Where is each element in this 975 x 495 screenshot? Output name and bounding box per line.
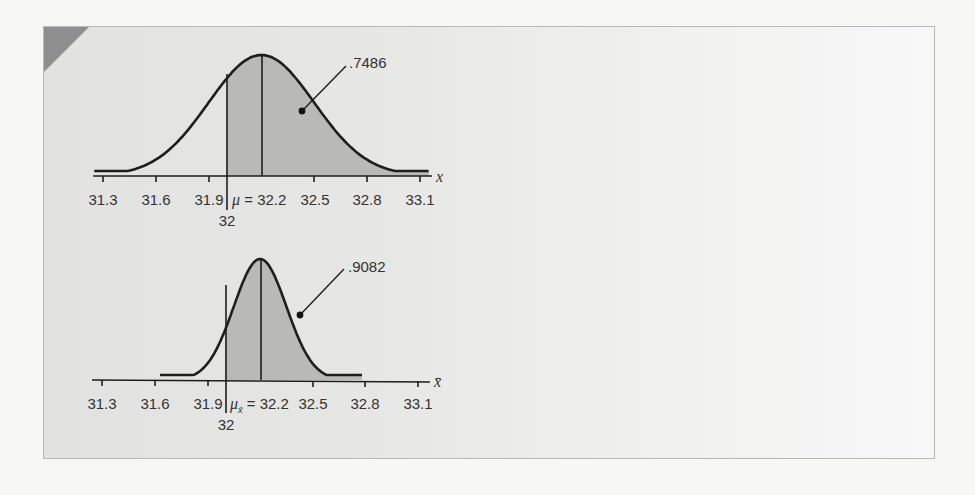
top-tick-32-8: 32.8 xyxy=(352,191,381,208)
mu-symbol: μ xyxy=(229,395,238,413)
bottom-tick-32-8: 32.8 xyxy=(350,395,379,412)
bottom-tick-31-9: 31.9 xyxy=(193,395,222,412)
top-shaded-area xyxy=(226,55,428,176)
bottom-mean-value: = 32.2 xyxy=(243,395,289,412)
bottom-chart: 31.3 31.6 31.9 μx̄ = 32.2 32.5 32.8 33.1… xyxy=(87,258,441,433)
bottom-area-leader-dot xyxy=(297,312,304,319)
top-tick-31-3: 31.3 xyxy=(88,191,117,208)
top-x-axis-ticks xyxy=(103,176,420,182)
bottom-32-label: 32 xyxy=(218,416,235,433)
top-tick-31-6: 31.6 xyxy=(141,191,170,208)
top-tick-31-9: 31.9 xyxy=(194,191,223,208)
top-chart: 31.3 31.6 31.9 μ = 32.2 32.5 32.8 33.1 3… xyxy=(88,54,443,229)
bottom-area-label: .9082 xyxy=(348,258,386,275)
normal-distribution-figure: 31.3 31.6 31.9 μ = 32.2 32.5 32.8 33.1 3… xyxy=(0,0,975,495)
bottom-mean-label: μx̄ = 32.2 xyxy=(229,395,289,415)
bottom-tick-31-6: 31.6 xyxy=(140,395,169,412)
bottom-tick-32-5: 32.5 xyxy=(298,395,327,412)
top-axis-variable: x xyxy=(435,168,443,185)
bottom-tick-33-1: 33.1 xyxy=(403,395,432,412)
top-area-leader-line xyxy=(302,66,346,111)
top-area-leader-dot xyxy=(299,108,306,115)
top-tick-33-1: 33.1 xyxy=(405,191,434,208)
top-32-label: 32 xyxy=(219,212,236,229)
top-tick-32-5: 32.5 xyxy=(300,191,329,208)
bottom-tick-31-3: 31.3 xyxy=(87,395,116,412)
bottom-x-axis xyxy=(92,380,430,382)
top-mean-value: = 32.2 xyxy=(240,191,286,208)
mu-symbol: μ xyxy=(231,191,240,209)
bottom-axis-variable: x̄ xyxy=(433,373,441,390)
bottom-area-leader-line xyxy=(300,269,344,315)
top-area-label: .7486 xyxy=(349,54,387,71)
top-mean-label: μ = 32.2 xyxy=(231,191,286,209)
